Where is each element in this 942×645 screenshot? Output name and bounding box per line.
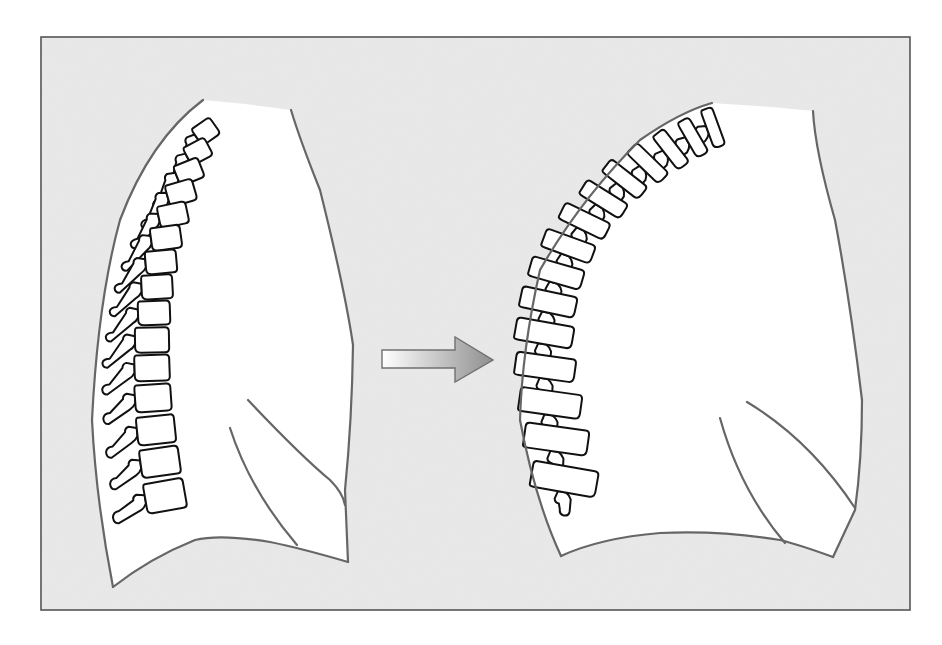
spine-comparison-diagram [0, 0, 942, 645]
vertebral-body [134, 354, 170, 381]
vertebral-body [134, 383, 172, 412]
vertebral-body [150, 224, 183, 251]
vertebral-body [145, 249, 178, 275]
vertebral-body [143, 478, 188, 514]
vertebral-body [135, 327, 169, 353]
vertebral-body [139, 445, 182, 478]
vertebral-body [136, 414, 177, 446]
vertebral-body [141, 274, 173, 300]
vertebral-body [138, 300, 171, 325]
